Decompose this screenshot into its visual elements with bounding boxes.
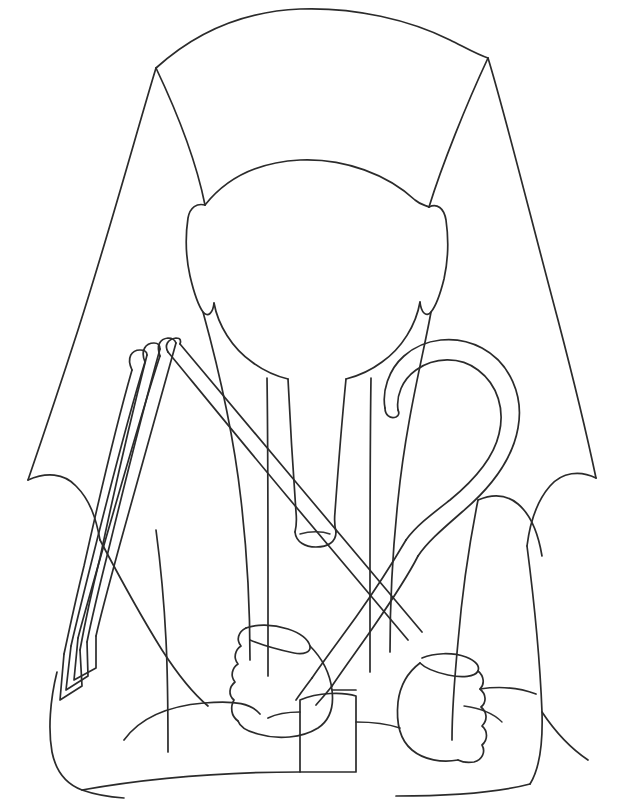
right-lappet-fold	[370, 378, 371, 672]
pharaoh-line-drawing: Front-facing bust of an Egyptian pharaoh…	[0, 0, 624, 805]
coloring-page-canvas: Egyptian Pharaoh Coloring Page Front-fac…	[0, 0, 624, 805]
left-lappet-fold	[267, 378, 268, 676]
paper-background	[0, 0, 624, 805]
